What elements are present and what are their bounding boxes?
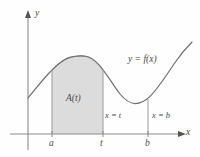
- x-axis-label: x: [186, 128, 190, 138]
- tick-label-b: b: [145, 139, 150, 149]
- y-axis-label: y: [35, 9, 39, 19]
- y-axis-arrowhead: [25, 10, 31, 18]
- x-axis-arrowhead: [178, 131, 186, 137]
- area-region-label: A(t): [66, 94, 81, 104]
- figure-container: y x a t b A(t) y = f(x) x = t x = b: [0, 0, 200, 157]
- calculus-area-diagram: [0, 0, 200, 157]
- tick-label-t: t: [100, 139, 103, 149]
- vertical-line-t-label: x = t: [105, 111, 121, 120]
- curve-equation-label: y = f(x): [128, 55, 157, 65]
- tick-label-a: a: [49, 139, 54, 149]
- vertical-line-b-label: x = b: [152, 111, 170, 120]
